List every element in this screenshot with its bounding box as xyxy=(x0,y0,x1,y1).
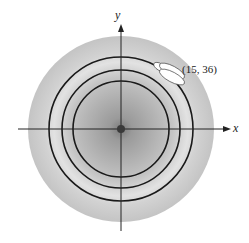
y-axis-label: y xyxy=(114,8,121,22)
origin-point xyxy=(117,125,125,133)
x-axis-label: x xyxy=(232,121,239,135)
diagram-canvas: x y (15, 36) xyxy=(0,0,249,243)
contour-diagram: x y (15, 36) xyxy=(0,0,249,243)
y-axis-arrow-icon xyxy=(118,24,124,32)
point-label: (15, 36) xyxy=(182,63,217,76)
x-axis-arrow-icon xyxy=(223,126,231,132)
